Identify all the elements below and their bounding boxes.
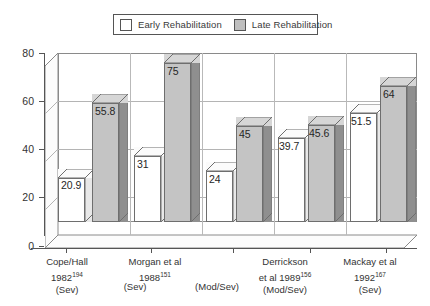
y-tick-label-40: 40 xyxy=(8,143,34,155)
x-label-5-sev: (Sev) xyxy=(325,284,415,297)
y-tick-mark-0 xyxy=(39,246,44,247)
x-label-1-year: 1982 xyxy=(51,272,72,283)
x-label-4-name: Derrickson xyxy=(262,256,307,267)
x-label-1-sev: (Sev) xyxy=(25,284,109,297)
bar-value-late-5: 64 xyxy=(383,88,395,100)
x-tick-mark-3 xyxy=(233,248,234,253)
x-tick-mark-5 xyxy=(386,248,387,253)
x-label-group-1: Cope/Hall 1982194 (Sev) xyxy=(25,256,109,297)
x-tick-mark-1 xyxy=(66,248,67,253)
bar-value-late-1: 55.8 xyxy=(95,105,115,117)
y-tick-label-0: 0 xyxy=(8,240,34,252)
bar-late-5 xyxy=(380,86,407,222)
x-tick-mark-2 xyxy=(151,248,152,253)
white-swatch-icon xyxy=(120,19,132,31)
category-separator-2 xyxy=(202,53,203,235)
y-tick-label-80: 80 xyxy=(8,47,34,59)
bar-value-late-2: 75 xyxy=(167,65,179,77)
y-tick-label-60: 60 xyxy=(8,95,34,107)
bar-value-early-5: 51.5 xyxy=(351,115,371,127)
x-label-2-name: Morgan et al xyxy=(129,256,182,267)
bar-late-2 xyxy=(164,63,191,222)
bar-late-3 xyxy=(236,126,263,222)
x-label-group-2: Morgan et al 1988151 xyxy=(112,256,198,284)
category-separator-1 xyxy=(130,53,131,235)
legend-item-early: Early Rehabilitation xyxy=(120,19,222,31)
legend-label-late: Late Rehabilitation xyxy=(252,19,333,30)
bar-value-late-4: 45.6 xyxy=(309,127,329,139)
bar-late-1 xyxy=(92,103,119,222)
legend-item-late: Late Rehabilitation xyxy=(234,19,333,31)
x-label-3-sev: (Mod/Sev) xyxy=(195,281,239,292)
bar-value-early-2: 31 xyxy=(137,158,149,170)
x-label-group-5: Mackay et al 1992167 (Sev) xyxy=(325,256,415,297)
x-label-5-ref: 167 xyxy=(375,271,386,278)
bar-value-late-3: 45 xyxy=(239,128,251,140)
category-separator-3 xyxy=(274,53,275,235)
bar-value-early-3: 24 xyxy=(209,173,221,185)
x-label-4-ref: 156 xyxy=(300,271,311,278)
x-label-2-sev: (Sev) xyxy=(124,281,147,292)
bar-chart: Early Rehabilitation Late Rehabilitation… xyxy=(0,0,430,306)
x-label-4-year: et al 1989 xyxy=(259,272,301,283)
x-label-2-ref: 151 xyxy=(160,271,171,278)
y-tick-label-20: 20 xyxy=(8,191,34,203)
x-axis-line xyxy=(31,248,417,249)
gray-swatch-icon xyxy=(234,19,246,31)
x-label-5-year: 1992 xyxy=(354,272,375,283)
x-label-1-name: Cope/Hall xyxy=(46,256,88,267)
bar-value-early-1: 20.9 xyxy=(61,179,81,191)
x-label-4-sev: (Mod/Sev) xyxy=(240,284,330,297)
plot-area: 20.9 55.8 31 xyxy=(45,53,417,235)
bar-early-5 xyxy=(350,113,377,222)
bar-value-early-4: 39.7 xyxy=(279,140,299,152)
x-label-1-ref: 194 xyxy=(72,271,83,278)
x-label-5-name: Mackay et al xyxy=(343,256,396,267)
legend-label-early: Early Rehabilitation xyxy=(138,19,222,30)
bar-late-4 xyxy=(308,125,335,222)
x-tick-mark-4 xyxy=(310,248,311,253)
x-label-group-2-sev: (Sev) xyxy=(110,281,160,294)
x-label-group-4: Derrickson et al 1989156 (Mod/Sev) xyxy=(240,256,330,297)
chart-legend: Early Rehabilitation Late Rehabilitation xyxy=(113,14,318,35)
category-separator-4 xyxy=(346,53,347,235)
